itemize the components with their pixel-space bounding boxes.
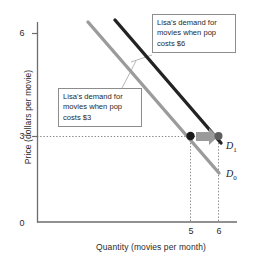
- y-axis-title: Price (dollars per movie): [23, 47, 33, 187]
- curve-label-d1-subscript: 1: [233, 146, 237, 154]
- y-tick-label-0: 0: [16, 218, 28, 228]
- x-tick-label-5: 5: [185, 226, 197, 236]
- curve-label-d0: D0: [226, 168, 237, 182]
- curve-label-d0-subscript: 0: [233, 174, 237, 182]
- callout-pop-costs-3: Lisa's demand for movies when pop costs …: [58, 88, 142, 127]
- curve-label-d1: D1: [226, 140, 237, 154]
- point-d1-at-price-3: [215, 132, 223, 140]
- demand-shift-chart: 6 3 0 5 6 Price (dollars per movie) Quan…: [0, 0, 253, 263]
- x-axis-title: Quantity (movies per month): [56, 242, 246, 252]
- callout-pop-costs-6: Lisa's demand for movies when pop costs …: [152, 14, 236, 53]
- x-tick-label-6: 6: [213, 226, 225, 236]
- point-d0-at-price-3: [186, 132, 194, 140]
- y-tick-label-6: 6: [16, 28, 28, 38]
